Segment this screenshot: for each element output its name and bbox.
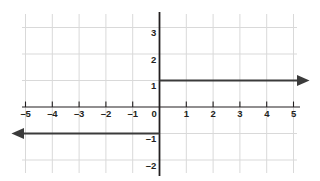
x-tick-label-0: 0 bbox=[151, 109, 156, 119]
y-tick-label--2: –2 bbox=[146, 161, 156, 171]
x-tick-label-3: 3 bbox=[237, 109, 242, 119]
y-tick-label--1: –1 bbox=[146, 134, 156, 144]
x-tick-label-5: 5 bbox=[291, 109, 296, 119]
x-tick-label-2: 2 bbox=[211, 109, 216, 119]
x-tick-label--5: –5 bbox=[20, 109, 30, 119]
y-tick-label-3: 3 bbox=[151, 28, 156, 38]
x-tick-label-4: 4 bbox=[264, 109, 269, 119]
coordinate-plane-graph: –5 –4 –3 –2 –1 0 1 2 3 4 5 3 2 1 –1 –2 bbox=[0, 0, 320, 181]
y-tick-label-2: 2 bbox=[151, 55, 156, 65]
x-tick-label--2: –2 bbox=[101, 109, 111, 119]
x-tick-label-1: 1 bbox=[184, 109, 189, 119]
x-tick-label--3: –3 bbox=[74, 109, 84, 119]
x-tick-label--1: –1 bbox=[128, 109, 138, 119]
x-tick-label--4: –4 bbox=[47, 109, 57, 119]
y-tick-label-1: 1 bbox=[151, 81, 156, 91]
plot-area bbox=[0, 0, 320, 181]
